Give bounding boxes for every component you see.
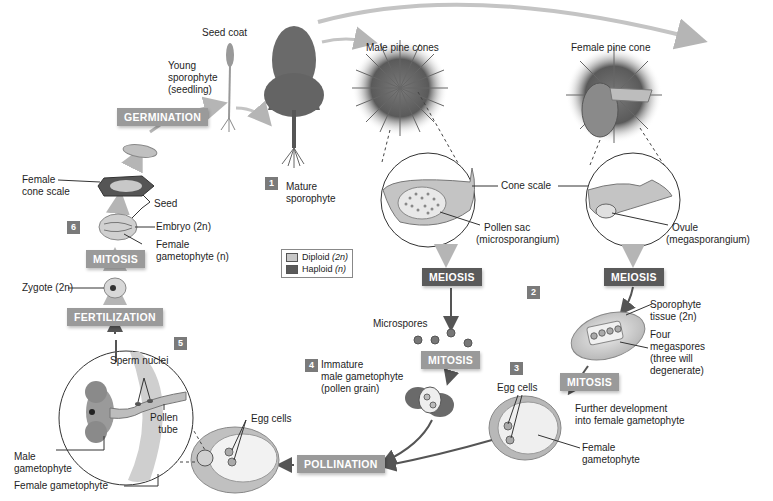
label-sperm-nuclei: Sperm nuclei [110,355,168,367]
step-badge-5: 5 [174,337,187,350]
label-seed-coat: Seed coat [202,27,247,39]
mature-pine-tree [264,26,324,168]
step-badge-1: 1 [265,177,278,190]
label-sporophyte-tissue: Sporophyte tissue (2n) [650,299,701,323]
label-young-sporophyte: Young sporophyte (seedling) [168,60,217,96]
process-germination: GERMINATION [117,108,208,126]
female-gametophyte-right [489,396,561,460]
process-mitosis-male: MITOSIS [421,351,480,369]
label-ovule: Ovule (megasporangium) [668,222,750,246]
label-female-pine-cone: Female pine cone [571,42,651,54]
seedling [221,43,235,132]
step-badge-4: 4 [305,359,318,372]
label-egg-cells-right: Egg cells [497,382,538,394]
process-mitosis-seed: MITOSIS [86,250,145,268]
label-microspores: Microspores [373,318,427,330]
process-pollination: POLLINATION [297,455,385,473]
diploid-swatch [286,253,298,262]
label-further-development: Further development into female gametoph… [575,403,685,427]
process-fertilization: FERTILIZATION [67,308,163,326]
label-egg-cells-bottom: Egg cells [251,413,292,425]
haploid-swatch [286,265,298,274]
label-female-gametophyte-n: Female gametophyte (n) [156,239,229,263]
label-four-megaspores: Four megaspores (three will degenerate) [650,329,705,377]
ovule-megaspores [565,303,651,368]
ovule-pollinated [191,427,279,493]
label-mature-sporophyte: Mature sporophyte [286,181,335,205]
label-pollen-tube: Pollen tube [150,412,178,436]
label-female-gametophyte-right: Female gametophyte [582,442,640,466]
process-meiosis-female: MEIOSIS [604,268,664,286]
legend-diploid: Diploid (2n) [286,251,352,263]
label-immature-male-gametophyte: Immature male gametophyte (pollen grain) [321,359,403,395]
legend-haploid: Haploid (n) [286,263,352,275]
process-mitosis-female: MITOSIS [560,373,619,391]
process-meiosis-male: MEIOSIS [422,268,482,286]
step-badge-6: 6 [67,221,80,234]
label-female-cone-scale: Female cone scale [22,174,70,198]
step-badge-2: 2 [527,286,540,299]
label-male-pine-cones: Male pine cones [366,42,439,54]
label-cone-scale: Cone scale [501,180,551,192]
label-male-gametophyte: Male gametophyte [14,451,72,475]
step-badge-3: 3 [510,362,523,375]
label-embryo: Embryo (2n) [156,221,211,233]
label-seed: Seed [154,198,177,210]
label-zygote: Zygote (2n) [22,282,73,294]
label-pollen-sac: Pollen sac (microsporangium) [476,222,559,246]
label-female-gametophyte-bottom: Female gametophyte [14,480,108,492]
ploidy-legend: Diploid (2n) Haploid (n) [281,249,353,278]
pollen-grain [405,387,454,417]
